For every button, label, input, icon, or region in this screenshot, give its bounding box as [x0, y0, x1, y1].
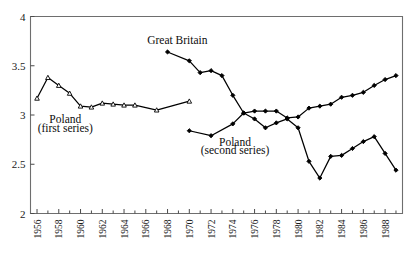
y-axis-tick-labels: 22.533.54: [12, 11, 26, 220]
x-tick-label: 1984: [337, 219, 347, 238]
line-chart-canvas: 22.533.54 195619581960196219641966196819…: [0, 0, 418, 256]
data-point-filled-diamond: [318, 104, 322, 108]
x-tick-label: 1978: [272, 219, 282, 238]
data-series-group: [35, 50, 398, 180]
y-tick-label: 3: [20, 109, 26, 121]
data-point-open-triangle: [35, 96, 40, 100]
data-point-filled-diamond: [263, 109, 267, 113]
plot-frame: [31, 17, 403, 214]
y-tick-label: 3.5: [12, 60, 26, 72]
annotation-poland-second-line2: (second series): [201, 144, 270, 157]
x-tick-label: 1970: [185, 219, 195, 238]
data-point-filled-diamond: [274, 121, 278, 125]
data-point-open-triangle: [111, 102, 116, 106]
data-point-open-triangle: [100, 101, 105, 105]
y-tick-label: 4: [20, 11, 26, 23]
y-tick-label: 2: [20, 208, 26, 220]
x-tick-label: 1962: [98, 219, 108, 238]
data-point-open-triangle: [46, 75, 51, 79]
data-point-filled-diamond: [252, 109, 256, 113]
data-point-filled-diamond: [394, 74, 398, 78]
x-tick-label: 1986: [359, 219, 369, 238]
x-tick-label: 1966: [141, 219, 151, 238]
data-point-filled-diamond: [350, 93, 354, 97]
x-axis-ticks: [37, 209, 396, 214]
y-tick-label: 2.5: [12, 158, 26, 170]
y-axis-ticks: [31, 17, 35, 214]
x-tick-label: 1982: [315, 219, 325, 238]
chart-figure: 22.533.54 195619581960196219641966196819…: [0, 0, 418, 256]
x-tick-label: 1976: [250, 219, 260, 238]
x-tick-label: 1958: [54, 219, 64, 238]
data-point-filled-diamond: [209, 69, 213, 73]
x-axis-tick-labels: 1956195819601962196419661968197019721974…: [33, 219, 391, 238]
series-1: [35, 75, 192, 112]
x-tick-label: 1956: [33, 219, 43, 238]
data-point-filled-diamond: [187, 129, 191, 133]
series-line: [189, 76, 396, 136]
data-point-open-triangle: [187, 99, 192, 103]
data-point-filled-diamond: [329, 154, 333, 158]
x-tick-label: 1964: [120, 219, 130, 238]
x-tick-label: 1968: [163, 219, 173, 238]
data-point-open-triangle: [89, 105, 94, 109]
x-tick-label: 1974: [228, 219, 238, 238]
annotation-great-britain: Great Britain: [147, 34, 208, 46]
series-3: [187, 74, 398, 138]
data-point-filled-diamond: [165, 50, 169, 54]
x-tick-label: 1960: [76, 219, 86, 238]
data-point-open-triangle: [133, 103, 138, 107]
annotation-poland-first-line2: (first series): [38, 122, 93, 135]
data-point-open-triangle: [154, 108, 159, 112]
axes-frame: [31, 17, 403, 214]
x-tick-label: 1980: [294, 219, 304, 238]
x-tick-label: 1988: [381, 219, 391, 238]
data-point-open-triangle: [122, 103, 127, 107]
x-tick-label: 1972: [207, 219, 217, 238]
